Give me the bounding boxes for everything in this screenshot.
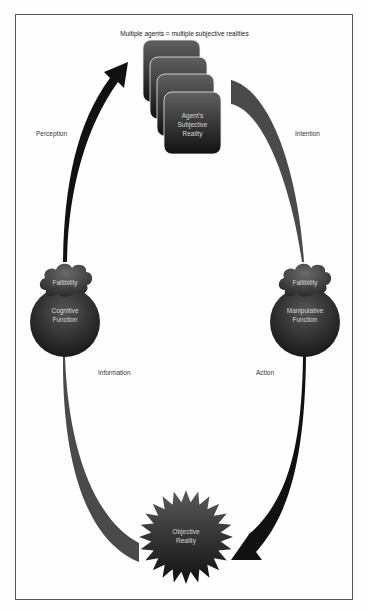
action-arrow <box>231 356 306 560</box>
perception-label: Perception <box>36 130 67 137</box>
diagram-title: Multiple agents = multiple subjective re… <box>0 30 369 37</box>
label-line: Function <box>30 315 100 324</box>
label-line: Reality <box>164 129 221 138</box>
intention-label: Intention <box>295 130 320 137</box>
objective-reality-label: Objective Reality <box>151 527 221 545</box>
intention-arrow <box>231 80 304 262</box>
label-line: Subjective <box>164 120 221 129</box>
subjective-reality-label: Agent's Subjective Reality <box>164 111 221 138</box>
label-line: Objective <box>151 527 221 536</box>
label-line: Manipulative <box>270 306 340 315</box>
action-label: Action <box>256 369 274 376</box>
information-arrow <box>63 356 139 562</box>
perception-arrow <box>63 62 128 262</box>
information-label: Information <box>98 369 131 376</box>
label-line: Function <box>270 315 340 324</box>
manipulative-function-label: Manipulative Function <box>270 306 340 324</box>
cognitive-function-label: Cognitive Function <box>30 306 100 324</box>
label-line: Cognitive <box>30 306 100 315</box>
fallibility-left-label: Fallibility <box>40 278 90 287</box>
fallibility-right-label: Fallibility <box>280 278 330 287</box>
label-line: Agent's <box>164 111 221 120</box>
label-line: Reality <box>151 536 221 545</box>
